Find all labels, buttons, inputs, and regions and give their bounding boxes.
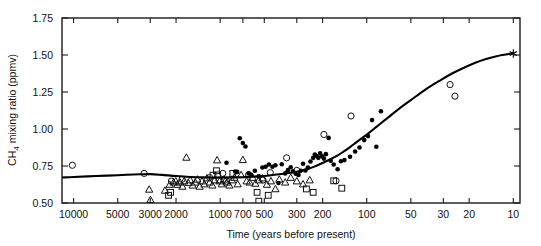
ch4-mixing-ratio-scatter-chart: 1000050003000200010007005003002001005030…: [0, 0, 541, 246]
x-tick-label: 700: [234, 208, 252, 220]
data-point-circle-filled: [301, 161, 306, 166]
x-tick-label: 3000: [139, 208, 163, 220]
data-point-triangle-open: [239, 156, 246, 162]
data-point-square-open: [265, 192, 271, 198]
x-tick-label: 5000: [106, 208, 130, 220]
y-tick-label: 1.25: [33, 86, 54, 98]
data-point-circle-filled: [331, 162, 336, 167]
data-point-circle-filled: [353, 149, 358, 154]
data-point-square-open: [310, 189, 316, 195]
series-filled-circle: [224, 109, 383, 185]
y-axis-title-suffix: mixing ratio (ppmv): [6, 54, 18, 146]
x-tick-label: 50: [405, 208, 417, 220]
x-tick-label: 200: [314, 208, 332, 220]
data-point-circle-filled: [237, 136, 242, 141]
data-point-circle-open: [284, 155, 290, 161]
data-point-circle-filled: [273, 163, 278, 168]
x-tick-label: 10000: [59, 208, 88, 220]
data-point-circle-filled: [288, 165, 293, 170]
x-tick-label: 10: [507, 208, 519, 220]
x-axis-tick-labels: 1000050003000200010007005003002001005030…: [59, 208, 519, 220]
data-point-triangle-open: [213, 156, 220, 162]
fitted-trend-path: [62, 53, 513, 177]
y-axis-title-prefix: CH: [6, 151, 18, 166]
data-point-circle-filled: [326, 136, 331, 141]
y-tick-label: 1.00: [33, 123, 54, 135]
data-point-circle-open: [447, 82, 453, 88]
y-axis-tick-labels: 0.500.751.001.251.501.75: [33, 12, 54, 209]
fitted-trend-curve: [62, 53, 513, 177]
x-tick-label: 100: [358, 208, 376, 220]
data-point-circle-filled: [335, 167, 340, 172]
data-point-square-open: [339, 185, 345, 191]
data-point-circle-filled: [253, 168, 258, 173]
data-point-circle-filled: [348, 155, 353, 160]
data-point-triangle-open: [272, 185, 279, 191]
data-point-circle-filled: [296, 173, 301, 178]
data-point-circle-filled: [379, 109, 384, 114]
data-point-triangle-open: [146, 186, 153, 192]
data-point-triangle-open: [306, 176, 313, 182]
y-tick-label: 0.75: [33, 160, 54, 172]
data-point-circle-filled: [243, 144, 248, 149]
data-point-circle-open: [452, 93, 458, 99]
data-point-circle-filled: [322, 156, 327, 161]
x-tick-label: 300: [288, 208, 306, 220]
data-point-circle-open: [69, 162, 75, 168]
x-tick-label: 30: [438, 208, 450, 220]
data-point-markers: [69, 49, 517, 204]
data-point-triangle-open: [183, 154, 190, 160]
data-point-circle-filled: [374, 144, 379, 149]
data-point-circle-filled: [308, 159, 313, 164]
x-tick-label: 2000: [164, 208, 188, 220]
data-point-circle-open: [333, 178, 339, 184]
data-point-triangle-open: [267, 178, 274, 184]
data-point-circle-filled: [324, 152, 329, 157]
y-axis-title: CH4 mixing ratio (ppmv): [6, 54, 21, 166]
data-point-circle-filled: [342, 158, 347, 163]
chart-figure: 1000050003000200010007005003002001005030…: [0, 0, 541, 246]
y-tick-label: 0.50: [33, 197, 54, 209]
x-tick-label: 500: [256, 208, 274, 220]
data-point-circle-open: [321, 131, 327, 137]
data-point-circle-filled: [276, 181, 281, 186]
x-axis-title: Time (years before present): [226, 228, 355, 240]
y-tick-label: 1.50: [33, 49, 54, 61]
data-point-square-open: [254, 189, 260, 195]
x-tick-label: 1000: [208, 208, 232, 220]
data-point-triangle-open: [287, 174, 294, 180]
x-tick-label: 20: [463, 208, 475, 220]
data-point-circle-filled: [279, 162, 284, 167]
data-point-circle-filled: [224, 160, 229, 165]
data-point-circle-filled: [357, 145, 362, 150]
data-point-circle-filled: [235, 170, 240, 175]
data-point-circle-filled: [370, 118, 375, 123]
y-tick-label: 1.75: [33, 12, 54, 24]
data-point-circle-open: [348, 113, 354, 119]
